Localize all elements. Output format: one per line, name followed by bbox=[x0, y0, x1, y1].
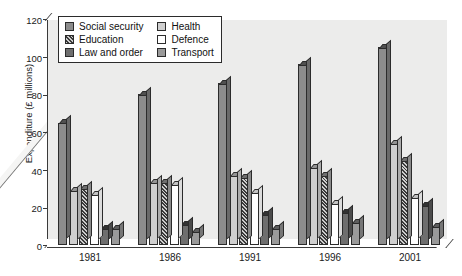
legend-swatch-icon bbox=[157, 48, 166, 57]
bar-side-face bbox=[279, 221, 284, 240]
bar-side-face bbox=[237, 168, 242, 239]
bar-side-face bbox=[317, 161, 322, 240]
y-tick-mark bbox=[43, 245, 47, 246]
y-tick-label: 100 bbox=[14, 52, 42, 63]
legend-swatch-icon bbox=[65, 48, 74, 57]
legend-swatch-icon bbox=[157, 35, 166, 44]
y-tick-label: 0 bbox=[14, 241, 42, 252]
y-tick-mark bbox=[43, 95, 47, 96]
legend-swatch-icon bbox=[157, 22, 166, 31]
bar-side-face bbox=[178, 177, 183, 239]
bar-side-face bbox=[386, 40, 391, 240]
legend-label: Transport bbox=[171, 47, 213, 58]
bar-side-face bbox=[66, 115, 71, 239]
x-tick-label-2001: 2001 bbox=[399, 252, 421, 263]
bar-side-face bbox=[359, 215, 364, 239]
y-axis-title: Expenditure (£ millions) bbox=[23, 24, 34, 204]
bar-side-face bbox=[306, 57, 311, 240]
bar-side-face bbox=[338, 196, 343, 239]
bar-group bbox=[378, 20, 440, 245]
bar-side-face bbox=[247, 170, 252, 240]
y-tick-label: 40 bbox=[14, 165, 42, 176]
bar-side-face bbox=[77, 183, 82, 239]
y-tick-label: 120 bbox=[14, 15, 42, 26]
bar-side-face bbox=[119, 221, 124, 240]
legend-item-transport[interactable]: Transport bbox=[157, 47, 213, 58]
y-tick-mark bbox=[43, 170, 47, 171]
legend-item-health[interactable]: Health bbox=[157, 21, 213, 32]
legend-swatch-icon bbox=[65, 35, 74, 44]
bar-group bbox=[218, 20, 280, 245]
y-tick-label: 80 bbox=[14, 90, 42, 101]
legend-label: Law and order bbox=[79, 47, 143, 58]
legend-item-social-security[interactable]: Social security bbox=[65, 21, 143, 32]
bar-side-face bbox=[407, 153, 412, 240]
y-tick-mark bbox=[43, 19, 47, 20]
x-tick-label-1991: 1991 bbox=[239, 252, 261, 263]
bar-side-face bbox=[157, 176, 162, 240]
y-tick-mark bbox=[43, 208, 47, 209]
bar-side-face bbox=[268, 208, 273, 240]
x-tick-label-1986: 1986 bbox=[159, 252, 181, 263]
bar-side-face bbox=[418, 191, 423, 240]
legend-label: Defence bbox=[171, 34, 208, 45]
y-tick-mark bbox=[43, 132, 47, 133]
bar-side-face bbox=[98, 187, 103, 240]
bar-side-face bbox=[188, 217, 193, 239]
bar-side-face bbox=[167, 176, 172, 240]
bar-social-security-2001 bbox=[378, 47, 387, 245]
legend-swatch-icon bbox=[65, 22, 74, 31]
bar-chart: Expenditure (£ millions) 020406080100120… bbox=[0, 0, 462, 276]
legend-item-education[interactable]: Education bbox=[65, 34, 143, 45]
legend-label: Education bbox=[79, 34, 123, 45]
y-tick-label: 60 bbox=[14, 128, 42, 139]
bar-side-face bbox=[327, 168, 332, 239]
bar-side-face bbox=[258, 185, 263, 239]
legend-label: Social security bbox=[79, 21, 143, 32]
legend-label: Health bbox=[171, 21, 200, 32]
legend-item-defence[interactable]: Defence bbox=[157, 34, 213, 45]
bar-social-security-1981 bbox=[58, 123, 67, 245]
x-tick-label-1996: 1996 bbox=[319, 252, 341, 263]
bar-social-security-1986 bbox=[138, 94, 147, 245]
bar-side-face bbox=[226, 76, 231, 240]
legend-item-law-and-order[interactable]: Law and order bbox=[65, 47, 143, 58]
chart-legend: Social securityHealthEducationDefenceLaw… bbox=[58, 16, 222, 63]
y-tick-label: 20 bbox=[14, 203, 42, 214]
bar-side-face bbox=[397, 136, 402, 239]
bar-social-security-1996 bbox=[298, 64, 307, 245]
bar-social-security-1991 bbox=[218, 83, 227, 245]
bar-side-face bbox=[439, 219, 444, 240]
bar-side-face bbox=[428, 198, 433, 239]
bar-group bbox=[298, 20, 360, 245]
bar-side-face bbox=[146, 87, 151, 239]
bar-side-face bbox=[199, 225, 204, 240]
x-tick-label-1981: 1981 bbox=[79, 252, 101, 263]
bar-side-face bbox=[348, 206, 353, 240]
bar-side-face bbox=[87, 181, 92, 239]
y-tick-mark bbox=[43, 57, 47, 58]
